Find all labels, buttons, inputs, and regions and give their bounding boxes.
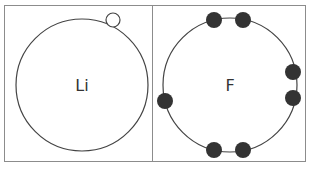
fluorine-panel: F bbox=[157, 12, 301, 158]
electron bbox=[206, 12, 222, 28]
fluorine-symbol: F bbox=[225, 76, 234, 95]
electron bbox=[235, 142, 251, 158]
bohr-diagram: Li F bbox=[0, 0, 310, 170]
electron bbox=[157, 93, 173, 109]
lithium-hollow-electron bbox=[106, 13, 120, 27]
electron bbox=[206, 142, 222, 158]
outer-border bbox=[5, 6, 306, 162]
lithium-symbol: Li bbox=[75, 76, 88, 95]
frame bbox=[5, 6, 306, 162]
lithium-panel: Li bbox=[16, 13, 148, 151]
electron bbox=[285, 90, 301, 106]
electron bbox=[235, 12, 251, 28]
electron bbox=[285, 64, 301, 80]
